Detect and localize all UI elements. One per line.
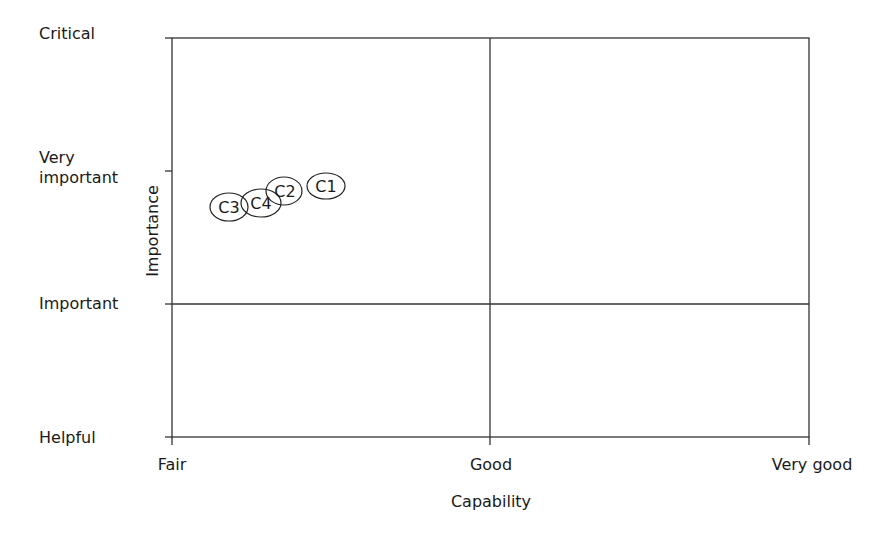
y-axis-title: Importance	[143, 185, 162, 277]
x-axis-title: Capability	[451, 492, 531, 511]
y-label-very: Very	[39, 148, 75, 167]
y-label-critical: Critical	[39, 24, 95, 43]
x-label-good: Good	[470, 455, 512, 474]
y-label-important: Important	[39, 294, 118, 313]
y-label-helpful: Helpful	[39, 428, 96, 447]
chart-canvas: C3 C4 C2 C1	[0, 0, 891, 543]
point-label: C4	[250, 194, 271, 213]
x-label-fair: Fair	[158, 455, 187, 474]
y-label-important-line2: important	[39, 168, 118, 187]
point-label: C3	[218, 198, 239, 217]
point-c1: C1	[307, 173, 345, 199]
x-label-very-good: Very good	[772, 455, 853, 474]
point-label: C2	[274, 182, 295, 201]
point-label: C1	[315, 177, 336, 196]
